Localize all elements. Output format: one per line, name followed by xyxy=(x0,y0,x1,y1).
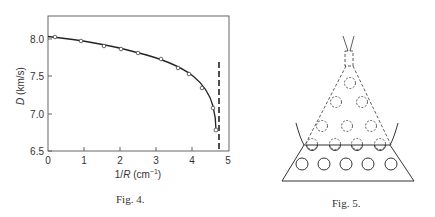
data-point xyxy=(214,128,218,132)
dashed-circle xyxy=(345,78,356,89)
x-axis-label: 1/R (cm−1) xyxy=(115,168,161,180)
data-points xyxy=(53,35,218,132)
trapezoid-base xyxy=(282,145,414,181)
dashed-circle xyxy=(357,97,368,108)
dashed-circle xyxy=(375,139,386,150)
data-point xyxy=(211,106,215,110)
data-point xyxy=(53,35,57,39)
solid-circle xyxy=(318,158,330,170)
x-tick-label: 1 xyxy=(81,155,87,166)
data-point xyxy=(102,44,106,48)
x-tick-label: 4 xyxy=(189,155,195,166)
dashed-circle xyxy=(307,139,318,150)
y-tick-labels: 6.5 7.0 7.5 8.0 xyxy=(30,34,44,157)
data-point xyxy=(119,47,123,51)
fig5-diagram xyxy=(282,36,414,181)
apex-lines xyxy=(343,36,354,51)
y-tick-label: 8.0 xyxy=(30,34,44,45)
x-tick-label: 2 xyxy=(117,155,123,166)
y-tick-label: 6.5 xyxy=(30,146,44,157)
dashed-circle xyxy=(331,97,342,108)
fig4-chart: 6.5 7.0 7.5 8.0 0 1 2 3 4 5 1/R (cm−1) D… xyxy=(15,16,231,180)
boundary-circles xyxy=(307,145,386,151)
data-point xyxy=(176,66,180,70)
x-tick-label: 5 xyxy=(225,155,231,166)
figures-canvas: 6.5 7.0 7.5 8.0 0 1 2 3 4 5 1/R (cm−1) D… xyxy=(0,0,435,217)
dashed-circle xyxy=(342,121,353,132)
x-axis-ticks xyxy=(84,147,192,151)
data-point xyxy=(200,86,204,90)
solid-circle xyxy=(362,158,374,170)
dashed-circle xyxy=(317,121,328,132)
y-axis-ticks xyxy=(48,39,52,151)
dashed-circle xyxy=(330,139,341,150)
dashed-circle xyxy=(352,139,363,150)
solid-circle xyxy=(385,158,397,170)
dashed-cone xyxy=(305,51,391,145)
solid-circle xyxy=(340,158,352,170)
left-wall-curve xyxy=(296,123,304,145)
data-point xyxy=(187,72,191,76)
y-tick-label: 7.5 xyxy=(30,71,44,82)
plot-frame xyxy=(48,16,229,151)
dashed-circle xyxy=(366,121,377,132)
solid-circles xyxy=(296,158,397,170)
dashed-apex-box xyxy=(345,51,353,66)
x-tick-labels: 0 1 2 3 4 5 xyxy=(45,155,231,166)
data-point xyxy=(79,39,83,43)
y-tick-label: 7.0 xyxy=(30,109,44,120)
solid-circle xyxy=(296,158,308,170)
y-axis-label: D (km/s) xyxy=(15,67,26,105)
data-point xyxy=(136,51,140,55)
dashed-circles xyxy=(307,78,386,150)
fitted-curve xyxy=(48,37,216,131)
right-wall-curve xyxy=(390,123,398,145)
x-tick-label: 0 xyxy=(45,155,51,166)
fig5-caption: Fig. 5. xyxy=(332,197,360,209)
data-point xyxy=(159,57,163,61)
fig4-caption: Fig. 4. xyxy=(116,193,144,205)
x-tick-label: 3 xyxy=(153,155,159,166)
